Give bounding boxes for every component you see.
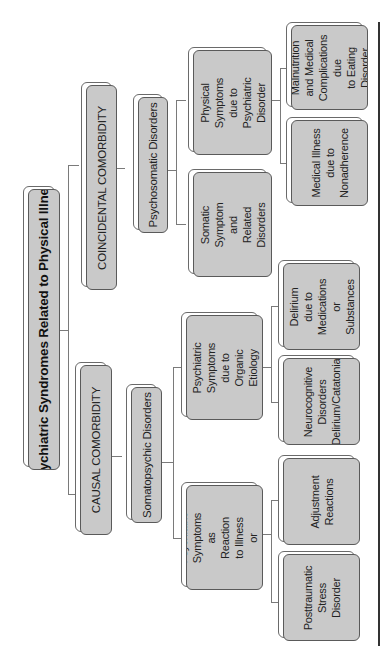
page-rule — [378, 22, 380, 646]
connector — [124, 168, 125, 169]
connector — [271, 500, 278, 501]
connector — [176, 224, 186, 225]
connector — [280, 68, 281, 164]
connector — [68, 165, 79, 166]
node-label: Physical Symptoms due to Psychiatric Dis… — [198, 77, 268, 128]
node-coincidental-comorbidity: COINCIDENTAL COMORBIDITY — [86, 85, 117, 290]
node-psychosomatic-disorders: Psychosomatic Disorders — [138, 97, 168, 233]
connector — [271, 402, 278, 403]
node-root-title: Psychiatric Syndromes Related to Physica… — [28, 189, 60, 470]
connector — [112, 456, 122, 457]
connector — [173, 367, 174, 539]
node-label: Psychiatric Syndromes Related to Physica… — [37, 189, 51, 470]
connector — [173, 367, 181, 368]
node-label: Posttraumatic Stress Disorder — [301, 565, 343, 630]
connector — [271, 602, 278, 603]
node-label: CAUSAL COMORBIDITY — [89, 387, 103, 513]
node-somatic-symptom-related: Somatic Symptom and Related Disorders — [193, 172, 272, 277]
node-medical-illness-nonadherence: Medical Illness due to Nonadherence — [291, 120, 368, 206]
node-label: Psychiatric Symptoms as Reaction to Illn… — [186, 512, 263, 563]
node-label: Psychosomatic Disorders — [146, 102, 160, 227]
node-psychiatric-organic-etiology: Psychiatric Symptoms due to Organic Etio… — [186, 315, 263, 420]
node-causal-comorbidity: CAUSAL COMORBIDITY — [80, 365, 112, 535]
node-physical-symptoms-psychiatric: Physical Symptoms due to Psychiatric Dis… — [193, 50, 272, 155]
node-label: Somatopsychic Disorders — [140, 392, 154, 518]
node-psychiatric-reaction-illness: Psychiatric Symptoms as Reaction to Illn… — [186, 485, 263, 590]
node-label: Psychiatric Symptoms due to Organic Etio… — [190, 342, 260, 393]
node-label: Neurocognitive Disorders Delirium/Catato… — [301, 358, 343, 445]
node-delirium-medications: Delirium due to Medications or Substance… — [283, 263, 360, 350]
node-neurocognitive-disorders: Neurocognitive Disorders Delirium/Catato… — [283, 358, 360, 445]
node-label: Adjustment Reactions — [308, 475, 336, 528]
connector — [271, 306, 272, 403]
node-adjustment-reactions: Adjustment Reactions — [283, 458, 360, 545]
connector — [271, 500, 272, 603]
connector — [271, 306, 278, 307]
node-label: Medical Illness due to Nonadherence — [309, 128, 351, 198]
hierarchy-diagram: Psychiatric Syndromes Related to Physica… — [0, 0, 386, 672]
node-somatopsychic-disorders: Somatopsychic Disorders — [131, 387, 162, 523]
node-malnutrition-eating-disorder: Malnutrition and Medical Complications d… — [291, 25, 368, 110]
connector — [68, 165, 69, 495]
connector — [173, 538, 181, 539]
node-label: Somatic Symptom and Related Disorders — [198, 202, 268, 247]
node-posttraumatic-stress-disorder: Posttraumatic Stress Disorder — [283, 554, 360, 641]
node-label: Delirium due to Medications or Substance… — [287, 278, 357, 335]
connector — [176, 100, 186, 101]
connector — [176, 100, 177, 225]
node-label: COINCIDENTAL COMORBIDITY — [95, 106, 109, 270]
node-label: Malnutrition and Medical Complications d… — [291, 34, 368, 100]
